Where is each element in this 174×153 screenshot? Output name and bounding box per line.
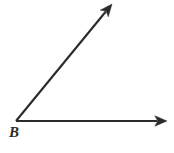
diagonal-ray-shaft — [16, 12, 106, 122]
vertex-label-b: B — [9, 125, 19, 140]
angle-figure: B — [0, 0, 174, 153]
angle-diagram-canvas — [0, 0, 174, 153]
